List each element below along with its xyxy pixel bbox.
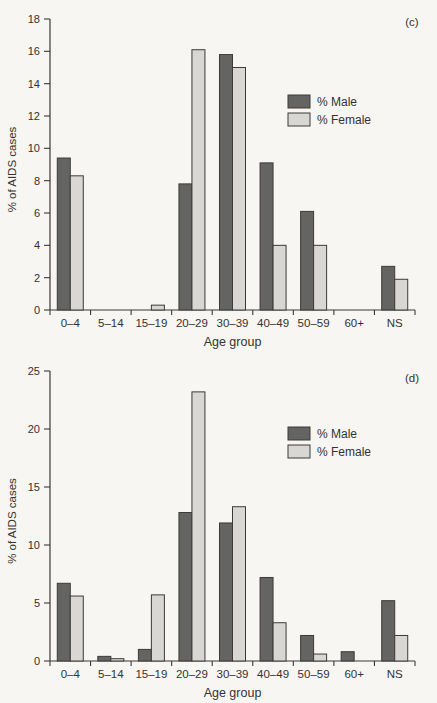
- y-tick-label: 5: [34, 597, 40, 609]
- y-tick-label: 8: [34, 175, 40, 187]
- x-category-label: 20–29: [176, 317, 208, 329]
- bar-female-40–49: [273, 245, 286, 310]
- legend-swatch-male: [288, 95, 310, 108]
- bar-female-40–49: [273, 623, 286, 661]
- bar-male-40–49: [260, 577, 273, 661]
- y-tick-label: 20: [28, 423, 40, 435]
- chart-c-svg: 0246810121416180–45–1415–1920–2930–3940–…: [0, 0, 437, 350]
- bar-female-0–4: [70, 596, 83, 661]
- bar-male-NS: [382, 601, 395, 661]
- bar-female-NS: [395, 635, 408, 661]
- x-category-label: 40–49: [257, 317, 289, 329]
- legend-label: % Female: [317, 445, 371, 459]
- bar-male-NS: [382, 266, 395, 310]
- panel-label: (c): [405, 16, 419, 28]
- y-tick-label: 14: [28, 78, 40, 90]
- y-tick-label: 12: [28, 110, 40, 122]
- bar-female-15–19: [151, 595, 164, 661]
- x-category-label: 40–49: [257, 668, 289, 680]
- bar-male-15–19: [138, 649, 151, 661]
- x-category-label: 50–59: [298, 317, 330, 329]
- x-category-label: 50–59: [298, 668, 330, 680]
- bar-female-50–59: [314, 654, 327, 661]
- bar-male-0–4: [57, 583, 70, 661]
- bar-male-5–14: [98, 656, 111, 661]
- y-axis-title: % of AIDS cases: [6, 478, 18, 564]
- y-tick-label: 0: [34, 304, 40, 316]
- x-category-label: 60+: [344, 668, 364, 680]
- bar-male-20–29: [179, 184, 192, 310]
- legend-swatch-female: [288, 445, 310, 458]
- bar-female-50–59: [314, 245, 327, 310]
- chart-d-svg: 05101520250–45–1415–1920–2930–3940–4950–…: [0, 350, 437, 703]
- bar-female-NS: [395, 279, 408, 310]
- x-category-label: 5–14: [98, 317, 124, 329]
- bar-male-40–49: [260, 163, 273, 310]
- x-category-label: 15–19: [135, 668, 167, 680]
- x-category-label: 60+: [344, 317, 364, 329]
- bar-female-30–39: [233, 507, 246, 661]
- y-tick-label: 16: [28, 45, 40, 57]
- y-tick-label: 18: [28, 13, 40, 25]
- bar-female-20–29: [192, 50, 205, 310]
- y-tick-label: 10: [28, 142, 40, 154]
- y-tick-label: 15: [28, 481, 40, 493]
- x-category-label: NS: [387, 668, 403, 680]
- x-category-label: 30–39: [217, 317, 249, 329]
- bar-male-30–39: [220, 523, 233, 661]
- x-category-label: 15–19: [135, 317, 167, 329]
- x-category-label: 30–39: [217, 668, 249, 680]
- y-axis-title: % of AIDS cases: [6, 126, 18, 212]
- x-category-label: 20–29: [176, 668, 208, 680]
- y-tick-label: 10: [28, 539, 40, 551]
- x-category-label: 5–14: [98, 668, 124, 680]
- bar-male-20–29: [179, 513, 192, 661]
- x-category-label: 0–4: [61, 668, 81, 680]
- panel-label: (d): [405, 372, 419, 384]
- bar-male-0–4: [57, 158, 70, 310]
- bar-female-20–29: [192, 392, 205, 661]
- legend-label: % Male: [317, 95, 357, 109]
- chart-panel-d: 05101520250–45–1415–1920–2930–3940–4950–…: [0, 350, 437, 703]
- y-tick-label: 25: [28, 365, 40, 377]
- x-category-label: NS: [387, 317, 403, 329]
- legend-swatch-male: [288, 427, 310, 440]
- legend-label: % Male: [317, 427, 357, 441]
- legend-swatch-female: [288, 113, 310, 126]
- bar-male-60+: [341, 652, 354, 661]
- y-tick-label: 0: [34, 655, 40, 667]
- chart-panel-c: 0246810121416180–45–1415–1920–2930–3940–…: [0, 0, 437, 350]
- bar-female-5–14: [111, 659, 124, 661]
- x-category-label: 0–4: [61, 317, 81, 329]
- bar-female-30–39: [233, 68, 246, 311]
- figure-page: 0246810121416180–45–1415–1920–2930–3940–…: [0, 0, 437, 703]
- x-axis-title: Age group: [204, 335, 262, 349]
- y-tick-label: 2: [34, 272, 40, 284]
- y-tick-label: 6: [34, 207, 40, 219]
- bar-male-50–59: [301, 635, 314, 661]
- x-axis-title: Age group: [204, 686, 262, 700]
- legend-label: % Female: [317, 113, 371, 127]
- bar-male-30–39: [220, 55, 233, 310]
- bar-female-15–19: [151, 305, 164, 310]
- bar-male-50–59: [301, 211, 314, 310]
- y-tick-label: 4: [34, 239, 40, 251]
- bar-female-0–4: [70, 176, 83, 310]
